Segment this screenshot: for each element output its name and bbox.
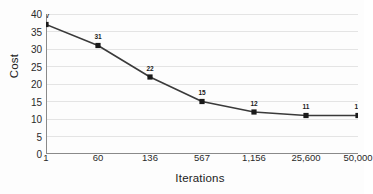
data-point-marker	[199, 99, 204, 104]
data-point-marker	[95, 43, 100, 48]
y-axis-tick-label: 20	[20, 79, 42, 90]
data-point-marker	[303, 113, 308, 118]
y-axis-tick-label: 30	[20, 44, 42, 55]
y-axis-title: Cost	[8, 34, 20, 98]
x-axis-tick-label: 1,156	[242, 152, 266, 163]
x-axis-title: Iterations	[40, 172, 360, 184]
y-axis-tick-labels: 0510152025303540	[20, 0, 42, 194]
data-point-marker	[46, 22, 49, 27]
y-axis-tick-label: 10	[20, 114, 42, 125]
y-axis-tick-label: 15	[20, 96, 42, 107]
data-point-label: 15	[198, 89, 206, 96]
y-axis-tick-label: 40	[20, 9, 42, 20]
data-point-label: 37	[46, 14, 50, 19]
data-point-marker	[355, 113, 358, 118]
x-axis-tick-label: 60	[93, 152, 104, 163]
data-point-label: 31	[94, 33, 102, 40]
data-point-label: 12	[250, 100, 258, 107]
y-axis-tick-label: 5	[20, 131, 42, 142]
data-point-label: 22	[146, 65, 154, 72]
data-point-label: 11	[355, 103, 358, 110]
x-axis-tick-label: 567	[194, 152, 210, 163]
data-point-marker	[251, 109, 256, 114]
x-axis-tick-labels: 1601365671,15625,60050,000	[46, 152, 358, 168]
x-axis-tick-label: 25,600	[291, 152, 320, 163]
y-axis-tick-label: 25	[20, 61, 42, 72]
y-axis-tick-label: 0	[20, 149, 42, 160]
plot-area: 37312215121111	[46, 14, 358, 154]
x-axis-tick-label: 50,000	[343, 152, 372, 163]
x-axis-tick-label: 1	[43, 152, 48, 163]
x-axis-tick-label: 136	[142, 152, 158, 163]
data-point-marker	[147, 74, 152, 79]
y-axis-tick-label: 35	[20, 26, 42, 37]
data-point-label: 11	[303, 103, 310, 110]
